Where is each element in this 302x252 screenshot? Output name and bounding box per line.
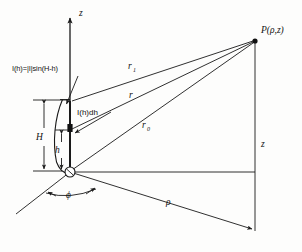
point-p-label: P(ρ,z) (260, 25, 284, 36)
r1-subscript: 1 (133, 67, 136, 73)
phi-arrow-right (86, 188, 95, 194)
r1-label-group: r 1 (128, 61, 136, 73)
current-element-label: I(h)dh (77, 108, 98, 117)
phi-label: ϕ (66, 190, 71, 200)
ray-r0 (72, 43, 253, 170)
current-distribution-formula: I(h)=|I|sin(H-h) (12, 64, 58, 73)
ray-r (72, 42, 253, 129)
r-label: r (129, 90, 133, 100)
r1-label: r (128, 61, 132, 71)
rho-axis-line (70, 172, 252, 229)
z-axis-label: z (78, 8, 83, 18)
phi-angle (46, 188, 96, 196)
H-label: H (35, 132, 44, 142)
r0-label-group: r 0 (142, 120, 150, 132)
h-label: h (55, 145, 60, 155)
ray-r1 (72, 41, 253, 101)
rho-label: ρ (165, 197, 171, 207)
z-height-label: z (260, 139, 265, 149)
radiation-geometry-svg: z I(h)=|I|sin(H-h) I(h)dh H h ϕ r 1 r r … (0, 0, 302, 252)
current-element-dh (67, 124, 72, 132)
r0-label: r (142, 120, 146, 130)
figure-canvas: z I(h)=|I|sin(H-h) I(h)dh H h ϕ r 1 r r … (0, 0, 302, 252)
r0-subscript: 0 (147, 126, 150, 132)
point-p-marker (252, 38, 257, 43)
ground-plane-left-line (16, 172, 70, 214)
